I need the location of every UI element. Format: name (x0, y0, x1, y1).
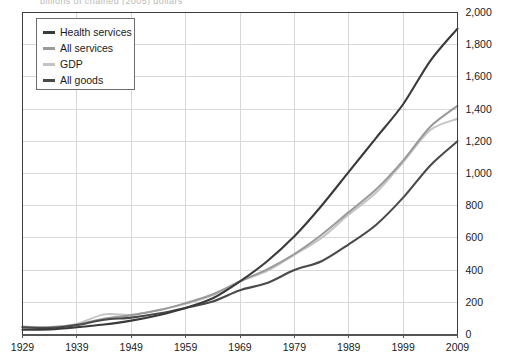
legend-item-gdp: GDP (43, 56, 134, 72)
chart-container: billions of chained (2005) dollars 2,000… (0, 0, 506, 360)
y-tick-label: 1,800 (466, 39, 492, 49)
x-tick-label: 1939 (56, 342, 98, 353)
legend-swatch-gdp (43, 63, 55, 66)
y-tick-label: 1,200 (466, 136, 492, 146)
y-tick-label: 1,600 (466, 71, 492, 81)
y-tick-label: 2,000 (466, 7, 492, 17)
y-tick-label: 0 (466, 329, 472, 339)
y-tick-label: 1,000 (466, 168, 492, 178)
x-tick-label: 2009 (437, 342, 479, 353)
y-tick-label: 200 (466, 297, 484, 307)
x-tick-label: 1929 (2, 342, 44, 353)
legend-item-all-goods: All goods (43, 72, 134, 88)
y-tick-label: 400 (466, 265, 484, 275)
legend-item-all-services: All services (43, 40, 134, 56)
y-tick-label: 600 (466, 232, 484, 242)
legend-label-health-services: Health services (60, 27, 132, 38)
x-tick-label: 1959 (165, 342, 207, 353)
y-tick-label: 800 (466, 200, 484, 210)
chart-legend: Health services All services GDP All goo… (36, 18, 135, 90)
x-tick-label: 1999 (382, 342, 424, 353)
legend-label-all-services: All services (60, 43, 113, 54)
legend-label-all-goods: All goods (60, 75, 103, 86)
x-tick-label: 1979 (273, 342, 315, 353)
legend-label-gdp: GDP (60, 59, 83, 70)
legend-swatch-health-services (43, 31, 55, 34)
x-tick-label: 1989 (328, 342, 370, 353)
legend-swatch-all-services (43, 47, 55, 50)
y-tick-label: 1,400 (466, 104, 492, 114)
legend-swatch-all-goods (43, 79, 55, 82)
x-tick-label: 1949 (110, 342, 152, 353)
x-tick-label: 1969 (219, 342, 261, 353)
legend-item-health-services: Health services (43, 24, 134, 40)
